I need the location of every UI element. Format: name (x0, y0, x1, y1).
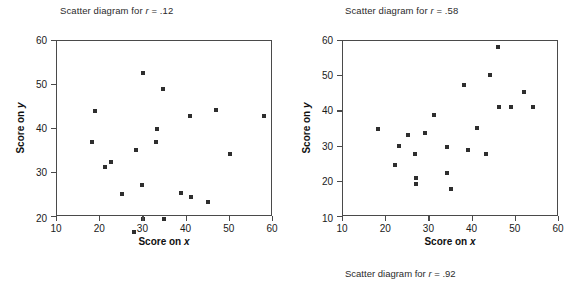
y-tick (337, 110, 342, 111)
data-point (497, 105, 501, 109)
data-point (206, 200, 210, 204)
data-point (445, 171, 449, 175)
data-point (189, 195, 193, 199)
x-tick (56, 216, 57, 221)
bottom-title-prefix: Scatter diagram for (345, 268, 428, 279)
y-tick (337, 146, 342, 147)
x-tick-label: 10 (336, 223, 347, 234)
data-point (531, 105, 535, 109)
data-point (413, 152, 417, 156)
y-tick (337, 181, 342, 182)
y-tick-label: 50 (317, 70, 333, 81)
data-point (376, 127, 380, 131)
data-point (228, 152, 232, 156)
y-tick (337, 40, 342, 41)
y-tick (51, 40, 56, 41)
data-point (90, 140, 94, 144)
y-tick (337, 216, 342, 217)
y-tick-label: 60 (317, 35, 333, 46)
x-tick (385, 216, 386, 221)
data-point (179, 191, 183, 195)
y-tick-label: 10 (317, 213, 333, 224)
y-tick (51, 84, 56, 85)
data-point (214, 108, 218, 112)
y-tick (51, 128, 56, 129)
panel-right-title-suffix: = .58 (434, 5, 459, 16)
data-point (161, 87, 165, 91)
data-point (188, 114, 192, 118)
x-tick (229, 216, 230, 221)
data-point (103, 165, 107, 169)
data-point (140, 183, 144, 187)
data-point (466, 148, 470, 152)
panel-right-title-prefix: Scatter diagram for (345, 5, 430, 16)
y-tick-label: 50 (31, 79, 47, 90)
x-tick (558, 216, 559, 221)
data-point (423, 131, 427, 135)
data-point (109, 160, 113, 164)
data-point (449, 187, 453, 191)
data-point (134, 148, 138, 152)
y-axis-title-var: y (15, 102, 26, 108)
data-point (141, 71, 145, 75)
y-tick (51, 216, 56, 217)
y-tick-label: 30 (31, 167, 47, 178)
x-tick-label: 50 (509, 223, 520, 234)
panel-left-title: Scatter diagram for r = .12 (60, 5, 173, 16)
y-tick-label: 40 (31, 123, 47, 134)
x-tick-label: 30 (137, 223, 148, 234)
data-point (93, 109, 97, 113)
panel-right-plot-area (342, 40, 558, 216)
y-tick-label: 30 (317, 140, 333, 151)
data-point (475, 126, 479, 130)
y-tick-label: 20 (31, 213, 47, 224)
data-point (397, 144, 401, 148)
panel-right-x-axis-title: Score on x (424, 236, 475, 247)
y-tick (51, 172, 56, 173)
x-tick-label: 20 (380, 223, 391, 234)
data-point (120, 192, 124, 196)
data-point (432, 113, 436, 117)
x-tick-label: 60 (266, 223, 277, 234)
data-point (488, 73, 492, 77)
panel-left-x-axis-title: Score on x (138, 236, 189, 247)
panel-left-title-suffix: = .12 (149, 5, 174, 16)
y-tick-label: 60 (31, 35, 47, 46)
data-point (155, 127, 159, 131)
x-axis-title-prefix: Score on (138, 236, 184, 247)
data-point (484, 152, 488, 156)
x-axis-title-prefix: Score on (424, 236, 470, 247)
panel-right-title: Scatter diagram for r = .58 (345, 5, 458, 16)
data-point (414, 182, 418, 186)
x-tick-label: 40 (180, 223, 191, 234)
panel-left-plot-area (56, 40, 272, 216)
x-tick-label: 10 (50, 223, 61, 234)
x-tick (272, 216, 273, 221)
data-point (406, 133, 410, 137)
x-tick (428, 216, 429, 221)
panel-right-y-axis-title: Score on y (301, 102, 312, 153)
x-tick (99, 216, 100, 221)
data-point (154, 140, 158, 144)
y-axis-title-var: y (301, 102, 312, 108)
data-point (496, 45, 500, 49)
data-point (462, 83, 466, 87)
data-point (414, 176, 418, 180)
panel-right: Scatter diagram for r = .58 (290, 0, 575, 255)
x-tick-label: 20 (94, 223, 105, 234)
panel-left-y-axis-title: Score on y (15, 102, 26, 153)
panel-left-title-prefix: Scatter diagram for (60, 5, 145, 16)
y-axis-title-prefix: Score on (301, 108, 312, 154)
x-axis-title-var: x (184, 236, 190, 247)
y-tick-label: 40 (317, 105, 333, 116)
x-tick-label: 30 (423, 223, 434, 234)
x-tick-label: 40 (466, 223, 477, 234)
data-point (262, 114, 266, 118)
x-axis-title-var: x (470, 236, 476, 247)
x-tick (186, 216, 187, 221)
x-tick (342, 216, 343, 221)
x-tick (515, 216, 516, 221)
panel-right-points (343, 41, 557, 215)
data-point (393, 163, 397, 167)
y-tick-label: 20 (317, 175, 333, 186)
